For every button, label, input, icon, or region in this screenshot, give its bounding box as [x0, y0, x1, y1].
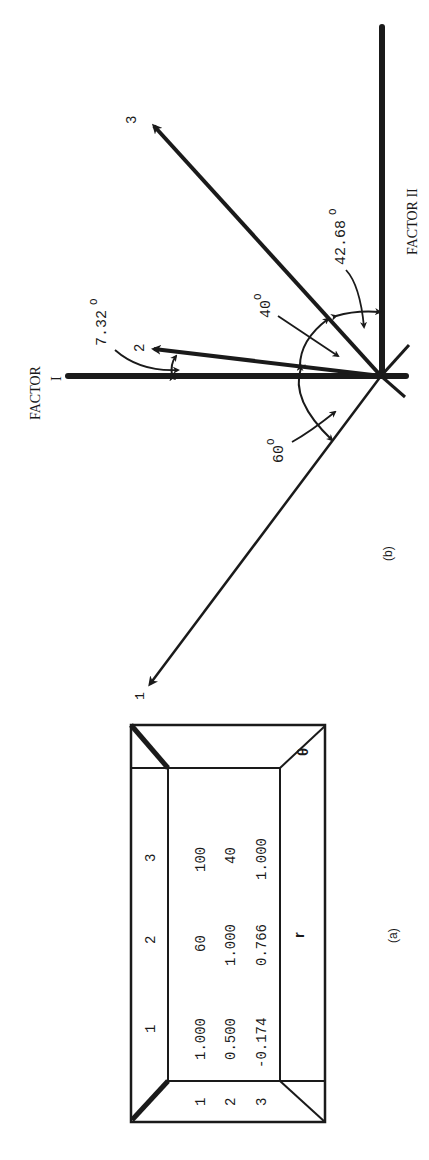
angle-label-60: 60 O: [265, 438, 288, 463]
angle-label-40: 40 O: [252, 293, 275, 318]
vector-2-arrow: [154, 349, 381, 376]
table-cell-r3-c3: 1.000: [254, 838, 270, 880]
factor-1-numeral: I: [49, 376, 64, 381]
factor-2-label: FACTOR II: [405, 188, 420, 255]
angle-value-60: 60: [271, 445, 288, 463]
table-row-header-1: 1: [193, 1098, 209, 1106]
table-bevel-bottom-left: [132, 1081, 168, 1120]
table-r-symbol: r: [290, 932, 307, 938]
degree-symbol: O: [88, 298, 100, 305]
table-cell-r2-c3: 40: [223, 847, 239, 864]
origin-cross-mark-2: [381, 376, 405, 397]
angle-7-32-leader: [115, 350, 178, 370]
degree-symbol: O: [252, 293, 264, 300]
angle-label-42-68: 42.68 O: [327, 208, 350, 265]
origin-cross-mark: [381, 345, 409, 376]
angle-value-40: 40: [258, 300, 275, 318]
angle-value-42-68: 42.68: [333, 220, 350, 265]
vector-1-arrow: [150, 376, 381, 684]
factor-1-label: FACTOR: [28, 365, 43, 420]
figure-canvas: FACTOR I FACTOR II 1 2 3 7.32 O 60 O 40 …: [0, 0, 429, 1160]
table-col-header-3: 3: [143, 854, 159, 862]
table-bevel-top-right: [280, 726, 325, 768]
vector-3-label: 3: [124, 116, 140, 124]
table-cell-r1-c3: 100: [193, 847, 209, 872]
angle-value-7-32: 7.32: [94, 310, 111, 346]
panel-a-label: (a): [386, 928, 400, 943]
table-cell-r2-c2: 1.000: [223, 924, 239, 966]
table-col-header-1: 1: [143, 1025, 159, 1033]
table-bevel-top-left: [131, 725, 168, 768]
table-bevel-bottom-right: [280, 1081, 325, 1122]
table-row-header-3: 3: [254, 1098, 270, 1106]
table-theta-symbol: θ: [294, 748, 311, 756]
angle-arc-42-68: [336, 312, 380, 317]
table-col-header-2: 2: [143, 936, 159, 944]
table-cell-r1-c2: 60: [193, 935, 209, 952]
table-cell-r1-c1: 1.000: [193, 1018, 209, 1060]
panel-b-vector-diagram: FACTOR I FACTOR II 1 2 3 7.32 O 60 O 40 …: [28, 27, 420, 700]
angle-42-68-leader: [346, 270, 364, 327]
table-cell-r3-c2: 0.766: [254, 924, 270, 966]
angle-40-leader: [278, 316, 338, 356]
table-outer-frame: [131, 725, 325, 1122]
angle-label-7-32: 7.32 O: [88, 298, 111, 346]
vector-2-label: 2: [132, 344, 148, 352]
degree-symbol: O: [327, 208, 339, 215]
panel-b-label: (b): [381, 546, 395, 561]
table-cell-r2-c1: 0.500: [223, 1018, 239, 1060]
vector-1-label: 1: [133, 692, 148, 700]
panel-a-table: 1 2 3 1 2 3 1.000 60 100 0.500 1.000 40 …: [131, 725, 400, 1122]
angle-arc-40: [300, 319, 328, 366]
table-row-header-2: 2: [223, 1098, 239, 1106]
degree-symbol: O: [265, 438, 277, 445]
table-cell-r3-c1: -0.174: [254, 1018, 270, 1068]
